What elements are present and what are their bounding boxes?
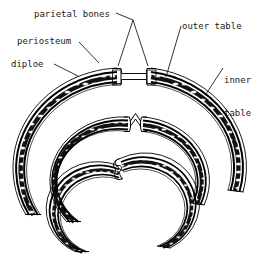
leader-periosteum: [79, 42, 99, 63]
label-outer-table: outer table: [182, 21, 242, 32]
skull-suture-diagram: parietal bones periosteum diploe outer t…: [0, 0, 269, 255]
outer-arch-open-suture: [122, 74, 147, 80]
middle-arch-interdigitating-suture: [131, 114, 141, 127]
label-inner-table: inner table: [224, 53, 251, 141]
label-parietal-bones: parietal bones: [34, 9, 110, 20]
label-inner-table-line2: table: [224, 108, 251, 119]
inner-arch-group: [46, 153, 199, 252]
leader-outer-table: [166, 26, 181, 77]
leader-parietal-bones-left: [116, 13, 133, 66]
label-diploe: diploe: [11, 59, 44, 70]
leader-diploe: [54, 64, 78, 76]
leader-parietal-bones-right: [133, 20, 148, 66]
label-periosteum: periosteum: [17, 36, 71, 47]
outer-arch-group: [13, 68, 246, 215]
outer-arch-left-bone: [13, 68, 121, 215]
label-inner-table-line1: inner: [224, 75, 251, 86]
leader-inner-table: [206, 68, 223, 94]
inner-arch-right-bone: [115, 153, 199, 248]
